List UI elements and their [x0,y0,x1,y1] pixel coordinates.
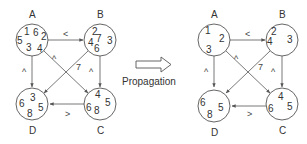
hollow-arrow-icon [136,57,171,72]
propagation-diagram: < ^ ^ > ^ 7 A 1 6 2 5 3 4 B 2 4 7 3 6 [0,0,307,144]
op-a-d: ^ [22,67,27,77]
node-label: D [211,127,218,138]
node-d: 3 6 5 8 D [16,88,48,136]
node-value: 1 [205,25,211,36]
node-a: A 1 6 2 5 3 4 [16,9,48,56]
propagation-label: Propagation [122,76,176,87]
node-value: 8 [27,108,33,119]
node-value: 8 [94,105,100,116]
node-value: 6 [33,27,39,38]
node-label: B [279,9,286,20]
node-label: A [211,9,218,20]
node-label: B [97,9,104,20]
node-value: 2 [219,33,225,44]
node-label: C [279,125,286,136]
node-value: 5 [105,97,111,108]
node-d: 6 5 8 D [198,90,230,138]
node-value: 3 [287,34,293,45]
node-value: 4 [278,91,284,102]
op-b-d: 7 [76,62,81,72]
node-value: 5 [17,35,23,46]
op-a-b: < [63,29,68,39]
node-value: 3 [30,92,36,103]
node-value: 6 [19,98,25,109]
node-value: 3 [26,42,32,53]
node-value: 5 [38,102,44,113]
op-b-d: 7 [258,62,263,72]
node-label: D [29,125,36,136]
node-value: 4 [267,36,273,47]
node-value: 3 [206,44,212,55]
node-b: B 2 4 7 3 6 [84,9,116,56]
node-a: A 1 2 3 [198,9,230,56]
node-value: 8 [207,109,213,120]
node-value: 1 [24,26,30,37]
node-value: 5 [287,101,293,112]
node-label: A [29,9,36,20]
node-circle [198,24,230,56]
node-label: C [97,125,104,136]
node-value: 6 [86,102,92,113]
op-a-d: ^ [204,67,209,77]
op-c-d: > [247,109,252,119]
node-value: 5 [218,102,224,113]
node-value: 6 [94,43,100,54]
op-a-b: < [245,29,250,39]
right-graph: < ^ ^ > ^ 7 A 1 2 3 B 2 4 3 6 5 8 D [198,9,298,138]
node-value: 4 [95,89,101,100]
propagation-arrow: Propagation [122,57,176,87]
node-value: 3 [107,35,113,46]
node-value: 4 [37,43,43,54]
node-value: 2 [41,31,47,42]
node-value: 6 [200,97,206,108]
op-c-d: > [65,109,70,119]
node-value: 6 [268,103,274,114]
node-c: 4 5 6 8 C [84,88,116,136]
node-b: B 2 4 3 [266,9,298,56]
left-graph: < ^ ^ > ^ 7 A 1 6 2 5 3 4 B 2 4 7 3 6 [16,9,116,136]
node-c: 4 6 5 C [266,88,298,136]
op-b-c: ^ [271,67,276,77]
op-b-c: ^ [89,67,94,77]
